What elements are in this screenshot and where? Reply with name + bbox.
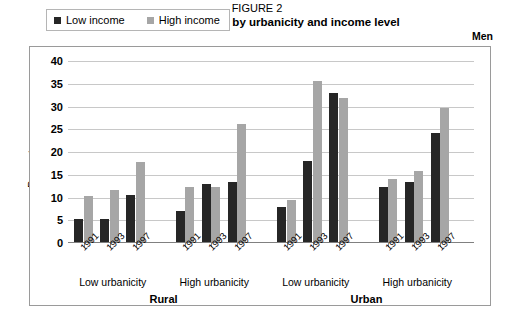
legend-item-high-income: High income	[147, 14, 220, 26]
bar-high-income	[237, 124, 246, 242]
bar-pair	[100, 60, 119, 242]
sex-label: Men	[472, 30, 493, 42]
legend-label-low-income: Low income	[66, 14, 125, 26]
bar-pair	[74, 60, 93, 242]
bar-low-income	[431, 133, 440, 242]
plot-canvas: 0510152025303540	[68, 61, 474, 243]
bar-pair	[405, 60, 424, 242]
x-axis-urbanicity-label: High urbanicity	[180, 276, 249, 288]
bar-low-income	[329, 93, 338, 242]
y-axis-tick-label: 10	[23, 192, 63, 204]
x-axis-urbanicity-label: Low urbanicity	[79, 276, 146, 288]
chart-legend: Low income High income	[46, 9, 230, 31]
bar-pair	[329, 60, 348, 242]
bar-high-income	[440, 108, 449, 242]
y-axis-tick-label: 0	[23, 237, 63, 249]
bar-low-income	[303, 161, 312, 242]
y-axis-tick-label: 5	[23, 214, 63, 226]
x-axis-urbanicity-label: Low urbanicity	[282, 276, 349, 288]
bar-low-income	[228, 182, 237, 242]
plot-area: 0510152025303540	[68, 61, 474, 243]
bar-pair	[176, 60, 195, 242]
bar-pair	[379, 60, 398, 242]
bar-pair	[202, 60, 221, 242]
legend-swatch-low-income	[54, 17, 61, 24]
x-axis-area-label: Rural	[149, 293, 177, 305]
x-axis-area-label: Urban	[351, 293, 383, 305]
x-axis-labels: 199119931997Low urbanicity199119931997Hi…	[68, 245, 474, 314]
bar-low-income	[379, 187, 388, 242]
bar-pair	[277, 60, 296, 242]
bar-low-income	[405, 182, 414, 242]
y-axis-tick-label: 40	[23, 55, 63, 67]
legend-item-low-income: Low income	[54, 14, 125, 26]
y-axis-tick-label: 15	[23, 169, 63, 181]
bar-pair	[303, 60, 322, 242]
bar-pair	[228, 60, 247, 242]
figure-container: FIGURE 2 Trends in overweight by urbanic…	[0, 0, 514, 314]
y-axis-tick-label: 25	[23, 123, 63, 135]
legend-swatch-high-income	[147, 17, 154, 24]
bar-low-income	[202, 184, 211, 242]
bar-low-income	[100, 219, 109, 242]
y-axis-tick-label: 35	[23, 78, 63, 90]
bar-pair	[431, 60, 450, 242]
bar-high-income	[313, 81, 322, 242]
bar-low-income	[74, 219, 83, 242]
bar-low-income	[277, 207, 286, 242]
y-axis-tick-label: 20	[23, 146, 63, 158]
x-axis-urbanicity-label: High urbanicity	[383, 276, 452, 288]
y-axis-tick-label: 30	[23, 101, 63, 113]
bar-pair	[126, 60, 145, 242]
bar-high-income	[339, 98, 348, 242]
legend-label-high-income: High income	[159, 14, 220, 26]
bar-low-income	[176, 211, 185, 242]
bar-low-income	[126, 195, 135, 242]
